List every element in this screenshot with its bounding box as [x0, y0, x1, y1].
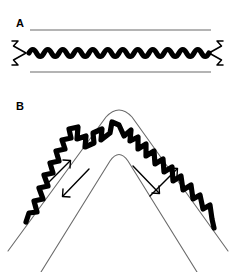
scientific-figure: A B [0, 0, 235, 272]
panel-b-label: B [16, 100, 24, 112]
panel-a-label: A [16, 17, 24, 29]
figure-background [0, 0, 235, 272]
